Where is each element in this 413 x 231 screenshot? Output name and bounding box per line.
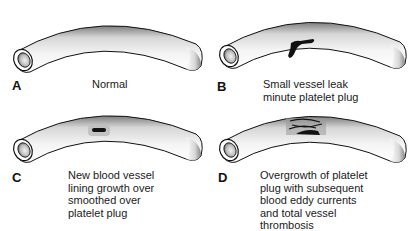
caption-c: New blood vessel lining growth over smoo… [68,169,154,219]
vessel-a [10,26,202,74]
panel-label-b: B [217,80,226,93]
caption-d: Overgrowth of platelet plug with subsequ… [260,169,368,231]
vessel-d [216,116,406,163]
vessel-b [216,22,406,69]
thrombosis-eddy-icon [286,118,326,135]
panel-label-d: D [218,171,227,184]
vessel-c [10,116,202,164]
caption-a: Normal [92,78,127,91]
caption-b: Small vessel leak minute platelet plug [263,78,358,103]
panel-label-a: A [12,79,21,92]
platelet-plug-icon [92,128,106,132]
panel-label-c: C [12,171,21,184]
